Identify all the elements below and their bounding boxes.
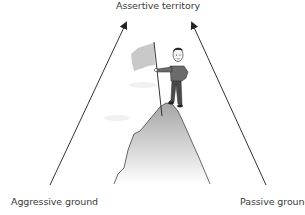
- person-icon: [154, 48, 188, 108]
- cloud-icon: [129, 82, 157, 88]
- cloud-icon: [104, 115, 130, 121]
- passive-ground-label: Passive ground: [240, 196, 305, 207]
- right-arrow: [192, 23, 266, 185]
- flag-icon: [131, 43, 155, 71]
- left-arrow: [50, 23, 126, 185]
- flagpole: [154, 42, 162, 116]
- aggressive-ground-label: Aggressive ground: [11, 196, 98, 207]
- diagram-canvas: [0, 0, 305, 215]
